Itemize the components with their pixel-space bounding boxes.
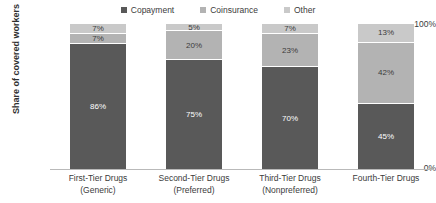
bar-segment-other[interactable]: 5% [166, 24, 223, 31]
stacked-bar[interactable]: 7%7%86% [70, 24, 127, 169]
bar-segment-value-label: 13% [378, 28, 394, 37]
legend-label-copayment: Copayment [131, 5, 174, 15]
category-label-line2: (Preferred) [146, 184, 242, 196]
y-axis-title: Share of covered workers [11, 0, 21, 119]
bar-segment-coinsurance[interactable]: 7% [70, 34, 127, 44]
bar-segment-value-label: 20% [186, 41, 202, 50]
bar-group: 5%20%75% [166, 24, 223, 169]
legend-label-other: Other [294, 5, 315, 15]
bar-segment-other[interactable]: 7% [70, 24, 127, 34]
x-axis-category-label: Second-Tier Drugs(Preferred) [146, 172, 242, 196]
legend-swatch-other [284, 7, 290, 13]
category-label-line2: (Nonpreferred) [242, 184, 338, 196]
bar-segment-value-label: 7% [284, 24, 296, 33]
legend-item-coinsurance[interactable]: Coinsurance [200, 5, 258, 15]
bar-segment-coinsurance[interactable]: 20% [166, 31, 223, 60]
bar-group: 7%23%70% [262, 24, 319, 169]
legend-swatch-copayment [121, 7, 127, 13]
bar-segment-value-label: 45% [378, 132, 394, 141]
legend-item-other[interactable]: Other [284, 5, 315, 15]
x-axis-category-label: Third-Tier Drugs(Nonpreferred) [242, 172, 338, 196]
stacked-bar[interactable]: 5%20%75% [166, 24, 223, 169]
category-label-line1: Third-Tier Drugs [259, 173, 321, 183]
stacked-bar[interactable]: 13%42%45% [358, 24, 415, 169]
x-axis-category-label: First-Tier Drugs(Generic) [50, 172, 146, 196]
bar-segment-other[interactable]: 7% [262, 24, 319, 34]
category-label-line2: (Generic) [50, 184, 146, 196]
bar-segment-value-label: 7% [92, 24, 104, 33]
x-axis-line [50, 169, 434, 170]
legend-item-copayment[interactable]: Copayment [121, 5, 174, 15]
category-label-line1: Second-Tier Drugs [158, 173, 229, 183]
legend-swatch-coinsurance [200, 7, 206, 13]
bar-segment-value-label: 23% [282, 46, 298, 55]
bar-segment-copayment[interactable]: 75% [166, 60, 223, 169]
bar-group: 13%42%45% [358, 24, 415, 169]
bar-segment-value-label: 42% [378, 68, 394, 77]
bar-segment-copayment[interactable]: 70% [262, 67, 319, 169]
x-axis-category-label: Fourth-Tier Drugs [338, 172, 434, 184]
bar-segment-value-label: 75% [186, 110, 202, 119]
stacked-bar[interactable]: 7%23%70% [262, 24, 319, 169]
bar-segment-coinsurance[interactable]: 42% [358, 43, 415, 104]
bar-segment-copayment[interactable]: 45% [358, 104, 415, 169]
bar-segment-value-label: 7% [92, 34, 104, 43]
bar-segment-value-label: 70% [282, 114, 298, 123]
chart-legend: Copayment Coinsurance Other [0, 3, 436, 17]
bar-segment-value-label: 86% [90, 102, 106, 111]
legend-label-coinsurance: Coinsurance [210, 5, 258, 15]
bar-segment-coinsurance[interactable]: 23% [262, 34, 319, 67]
category-label-line1: Fourth-Tier Drugs [353, 173, 420, 183]
stacked-bar-chart: Copayment Coinsurance Other Share of cov… [0, 0, 436, 203]
bar-group: 7%7%86% [70, 24, 127, 169]
x-axis-category-labels: First-Tier Drugs(Generic)Second-Tier Dru… [50, 172, 434, 203]
category-label-line1: First-Tier Drugs [69, 173, 128, 183]
plot-area: 7%7%86%5%20%75%7%23%70%13%42%45% [50, 24, 434, 169]
bar-segment-other[interactable]: 13% [358, 24, 415, 43]
bar-segment-copayment[interactable]: 86% [70, 44, 127, 169]
